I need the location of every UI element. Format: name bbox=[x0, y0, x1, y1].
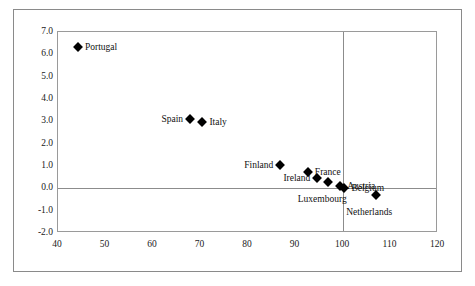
data-point-label: Netherlands bbox=[346, 207, 392, 218]
x-tick-label: 60 bbox=[147, 239, 157, 250]
y-tick-label: 5.0 bbox=[41, 71, 53, 81]
x-tick-label: 40 bbox=[52, 239, 62, 250]
y-axis-tick-labels: 7.06.05.04.03.02.01.00.0-1.0-2.0 bbox=[18, 31, 53, 232]
data-point-marker bbox=[275, 160, 285, 170]
x-tick-label: 80 bbox=[242, 239, 252, 250]
data-point-marker bbox=[323, 177, 333, 187]
y-tick-label: 1.0 bbox=[41, 160, 53, 170]
data-point-label: Portugal bbox=[85, 41, 117, 52]
data-point-label: Ireland bbox=[283, 172, 310, 183]
y-tick-label: 0.0 bbox=[41, 182, 53, 192]
y-tick-label: 7.0 bbox=[41, 26, 53, 36]
data-point-label: Spain bbox=[161, 113, 183, 124]
data-point-label: Finland bbox=[244, 159, 273, 170]
x-tick-label: 110 bbox=[383, 239, 397, 250]
x-tick-label: 100 bbox=[335, 239, 349, 250]
data-point-label: Italy bbox=[209, 117, 226, 128]
x-tick-label: 70 bbox=[195, 239, 205, 250]
x-tick-label: 90 bbox=[290, 239, 300, 250]
plot-area: PortugalSpainItalyFinlandFranceIrelandLu… bbox=[57, 31, 437, 232]
y-tick-label: 4.0 bbox=[41, 93, 53, 103]
x-tick-label: 120 bbox=[430, 239, 444, 250]
data-point-label: Belgium bbox=[351, 182, 384, 193]
data-point-marker bbox=[73, 42, 83, 52]
y-tick-label: -2.0 bbox=[38, 227, 53, 237]
data-point-label: Luxembourg bbox=[298, 194, 347, 205]
data-point-marker bbox=[185, 114, 195, 124]
y-tick-label: 3.0 bbox=[41, 115, 53, 125]
chart-figure: 7.06.05.04.03.02.01.00.0-1.0-2.0 4050607… bbox=[0, 0, 475, 286]
y-tick-label: 2.0 bbox=[41, 138, 53, 148]
x-axis-tick-labels: 405060708090100110120 bbox=[57, 239, 437, 253]
x-tick-label: 50 bbox=[100, 239, 110, 250]
data-point-marker bbox=[197, 117, 207, 127]
y-tick-label: -1.0 bbox=[38, 205, 53, 215]
y-tick-label: 6.0 bbox=[41, 48, 53, 58]
